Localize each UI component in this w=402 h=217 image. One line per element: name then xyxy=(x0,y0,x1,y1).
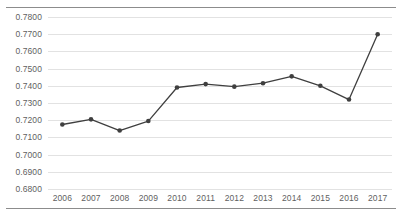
x-axis-tick-label: 2011 xyxy=(196,193,215,203)
data-point-marker xyxy=(203,82,208,87)
y-axis-tick-label: 0.7700 xyxy=(15,29,42,39)
x-axis-tick-label: 2015 xyxy=(311,193,330,203)
x-axis-tick-labels: 2006200720082009201020112012201320142015… xyxy=(48,193,392,209)
y-axis-tick-labels: 0.78000.77000.76000.75000.74000.73000.72… xyxy=(0,17,46,189)
x-axis-tick-label: 2008 xyxy=(110,193,129,203)
data-point-marker xyxy=(89,117,94,122)
data-point-marker xyxy=(146,119,151,124)
data-point-marker xyxy=(175,85,180,90)
data-point-marker xyxy=(318,84,323,89)
series-line xyxy=(62,34,377,130)
data-point-marker xyxy=(347,97,352,102)
data-point-marker xyxy=(232,84,237,89)
x-axis-tick-label: 2012 xyxy=(225,193,244,203)
y-axis-tick-label: 0.7000 xyxy=(15,150,42,160)
data-point-marker xyxy=(375,32,380,37)
x-axis-tick-label: 2009 xyxy=(139,193,158,203)
chart-top-rule xyxy=(6,7,396,8)
y-axis-tick-label: 0.7500 xyxy=(15,64,42,74)
line-chart: 0.78000.77000.76000.75000.74000.73000.72… xyxy=(0,0,402,217)
x-axis-tick-label: 2017 xyxy=(368,193,387,203)
data-point-marker xyxy=(261,81,266,86)
series-group xyxy=(48,17,392,189)
x-axis-tick-label: 2006 xyxy=(53,193,72,203)
y-axis-tick-label: 0.7800 xyxy=(15,12,42,22)
y-axis-tick-label: 0.6900 xyxy=(15,167,42,177)
y-axis-tick-label: 0.7300 xyxy=(15,98,42,108)
data-point-marker xyxy=(60,122,65,127)
gridline xyxy=(48,189,392,190)
x-axis-tick-label: 2013 xyxy=(253,193,272,203)
x-axis-tick-label: 2014 xyxy=(282,193,301,203)
x-axis-tick-label: 2010 xyxy=(167,193,186,203)
y-axis-tick-label: 0.7100 xyxy=(15,132,42,142)
y-axis-tick-label: 0.7200 xyxy=(15,115,42,125)
plot-area xyxy=(48,17,392,189)
chart-bottom-rule xyxy=(6,208,396,209)
x-axis-tick-label: 2007 xyxy=(81,193,100,203)
data-point-marker xyxy=(289,74,294,79)
series-marker-group xyxy=(60,32,380,133)
y-axis-tick-label: 0.7400 xyxy=(15,81,42,91)
y-axis-tick-label: 0.7600 xyxy=(15,46,42,56)
data-point-marker xyxy=(117,128,122,133)
y-axis-tick-label: 0.6800 xyxy=(15,184,42,194)
x-axis-tick-label: 2016 xyxy=(339,193,358,203)
